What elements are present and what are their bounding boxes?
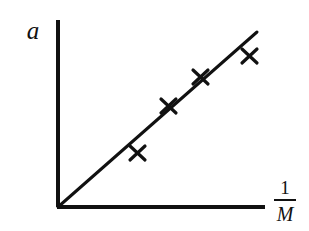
fraction-numerator: 1	[274, 178, 297, 198]
y-axis-label: a	[20, 18, 46, 43]
figure-container: a 1 M	[0, 0, 309, 231]
fraction-denominator: M	[274, 203, 297, 224]
best-fit-line	[58, 32, 257, 207]
fraction-bar	[274, 199, 297, 201]
x-axis-label: 1 M	[268, 178, 302, 224]
plot-area	[0, 0, 309, 231]
data-point-marker	[242, 49, 257, 63]
data-point-marker	[130, 146, 145, 160]
fraction-one-over-m: 1 M	[274, 178, 297, 224]
